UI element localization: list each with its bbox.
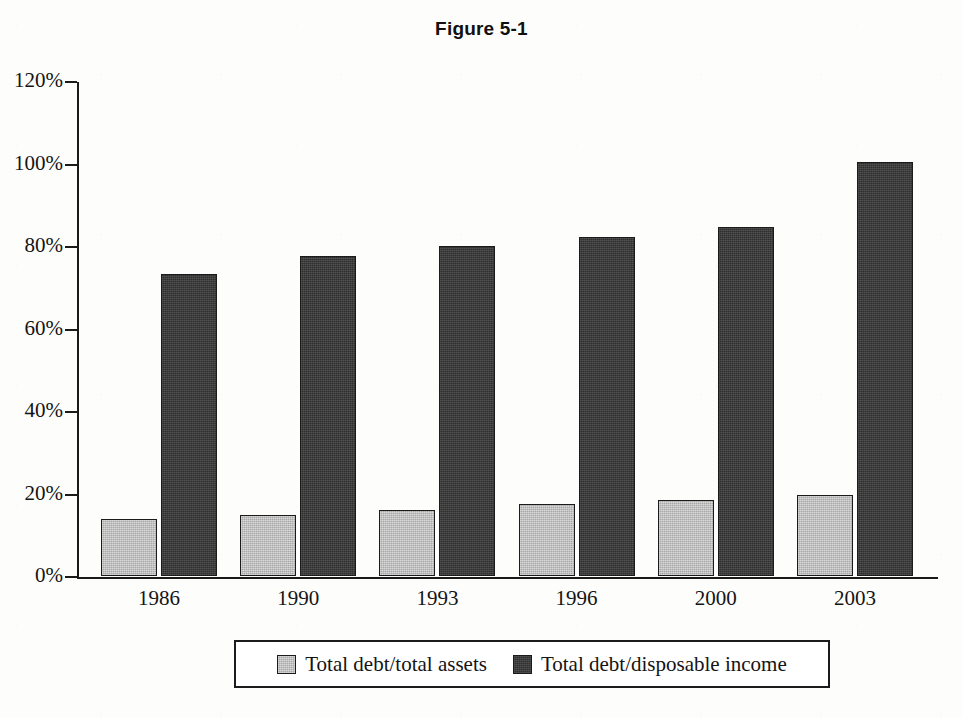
y-axis-tick bbox=[65, 164, 77, 166]
bar-1993-total-debt-total-assets bbox=[379, 510, 435, 576]
y-axis-tick-label: 60% bbox=[1, 316, 63, 341]
legend-swatch-dark bbox=[513, 655, 532, 674]
chart-legend: Total debt/total assetsTotal debt/dispos… bbox=[234, 640, 830, 688]
y-axis-tick bbox=[65, 411, 77, 413]
bar-1986-total-debt-total-assets bbox=[101, 519, 157, 576]
legend-item-2: Total debt/disposable income bbox=[513, 652, 787, 677]
bar-1996-total-debt-total-assets bbox=[519, 504, 575, 576]
x-axis-tick-label: 1993 bbox=[361, 586, 513, 611]
legend-item-1: Total debt/total assets bbox=[277, 652, 487, 677]
y-axis-tick-label: 120% bbox=[1, 68, 63, 93]
y-axis-tick bbox=[65, 329, 77, 331]
bar-2000-total-debt-disposable-income bbox=[718, 227, 774, 576]
x-axis-line bbox=[77, 577, 938, 579]
bar-2000-total-debt-total-assets bbox=[658, 500, 714, 576]
y-axis-tick bbox=[65, 576, 77, 578]
x-axis-tick-label: 1996 bbox=[501, 586, 653, 611]
y-axis-tick-label: 0% bbox=[1, 563, 63, 588]
legend-label: Total debt/disposable income bbox=[541, 652, 787, 677]
bar-2003-total-debt-disposable-income bbox=[857, 162, 913, 576]
bar-1996-total-debt-disposable-income bbox=[579, 237, 635, 576]
bar-1986-total-debt-disposable-income bbox=[161, 274, 217, 576]
bar-1990-total-debt-total-assets bbox=[240, 515, 296, 576]
y-axis-tick bbox=[65, 81, 77, 83]
x-axis-tick-label: 2000 bbox=[640, 586, 792, 611]
bar-2003-total-debt-total-assets bbox=[797, 495, 853, 576]
x-axis-tick-label: 1986 bbox=[83, 586, 235, 611]
x-axis-tick-label: 2003 bbox=[779, 586, 931, 611]
y-axis-line bbox=[77, 82, 79, 579]
bar-1993-total-debt-disposable-income bbox=[439, 246, 495, 576]
bar-1990-total-debt-disposable-income bbox=[300, 256, 356, 576]
y-axis-tick-label: 100% bbox=[1, 151, 63, 176]
legend-swatch-light bbox=[277, 655, 296, 674]
y-axis-tick bbox=[65, 246, 77, 248]
y-axis-tick bbox=[65, 494, 77, 496]
y-axis-tick-label: 40% bbox=[1, 398, 63, 423]
plot-area: 0%20%40%60%80%100%120% bbox=[77, 82, 938, 578]
page-title: Figure 5-1 bbox=[0, 18, 963, 40]
y-axis-tick-label: 20% bbox=[1, 481, 63, 506]
figure-page: Figure 5-1 0%20%40%60%80%100%120% 198619… bbox=[0, 0, 963, 718]
legend-label: Total debt/total assets bbox=[305, 652, 487, 677]
x-axis-tick-label: 1990 bbox=[222, 586, 374, 611]
y-axis-tick-label: 80% bbox=[1, 233, 63, 258]
